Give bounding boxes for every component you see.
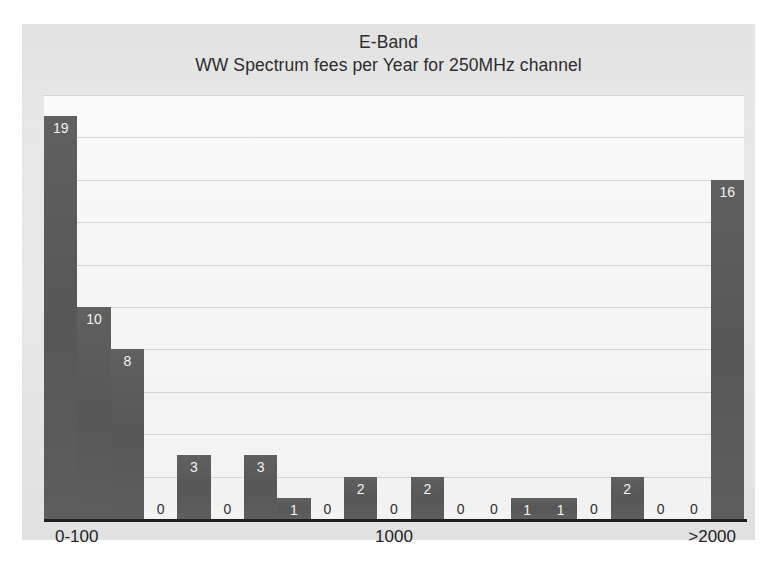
bar-slot: 2	[344, 95, 377, 519]
bar: 1	[277, 498, 310, 519]
bar-series: 191080303102020011020016	[44, 95, 744, 519]
bar-value-label: 0	[657, 502, 665, 517]
bar-value-label: 0	[590, 502, 598, 517]
bar: 1	[544, 498, 577, 519]
bar-value-label: 2	[357, 477, 365, 497]
bar-slot: 2	[411, 95, 444, 519]
bar-value-label: 16	[719, 180, 735, 200]
bar-value-label: 2	[623, 477, 631, 497]
x-tick-label-start: 0-100	[55, 526, 98, 548]
bar-value-label: 3	[190, 455, 198, 475]
bar-value-label: 1	[557, 498, 565, 518]
bar-value-label: 0	[390, 502, 398, 517]
bar-slot: 3	[177, 95, 210, 519]
bar-slot: 1	[277, 95, 310, 519]
bar-slot: 0	[211, 95, 244, 519]
bar-value-label: 3	[257, 455, 265, 475]
chart-title: E-Band	[22, 31, 755, 54]
plot-area: 191080303102020011020016	[44, 95, 744, 519]
bar-slot: 0	[377, 95, 410, 519]
bar-slot: 0	[144, 95, 177, 519]
chart-title-block: E-Band WW Spectrum fees per Year for 250…	[22, 31, 755, 77]
bar-slot: 0	[644, 95, 677, 519]
bar-slot: 0	[311, 95, 344, 519]
chart-subtitle: WW Spectrum fees per Year for 250MHz cha…	[22, 54, 755, 77]
bar-value-label: 0	[157, 502, 165, 517]
bar-value-label: 0	[490, 502, 498, 517]
bar-slot: 3	[244, 95, 277, 519]
bar: 3	[177, 455, 210, 519]
bar-value-label: 19	[53, 116, 69, 136]
bar-slot: 1	[544, 95, 577, 519]
bar: 8	[111, 349, 144, 519]
chart-card: E-Band WW Spectrum fees per Year for 250…	[22, 24, 755, 540]
bar-value-label: 1	[523, 498, 531, 518]
bar: 2	[411, 477, 444, 519]
bar: 10	[77, 307, 110, 519]
bar-value-label: 2	[423, 477, 431, 497]
bar: 2	[344, 477, 377, 519]
bar-slot: 19	[44, 95, 77, 519]
x-tick-label-mid: 1000	[375, 526, 413, 548]
screenshot-root: E-Band WW Spectrum fees per Year for 250…	[0, 0, 777, 563]
bar: 2	[611, 477, 644, 519]
bar-slot: 16	[711, 95, 744, 519]
x-tick-label-end: >2000	[688, 526, 736, 548]
bar: 1	[511, 498, 544, 519]
bar-slot: 8	[111, 95, 144, 519]
bar-slot: 0	[477, 95, 510, 519]
bar-value-label: 0	[323, 502, 331, 517]
bar-value-label: 0	[457, 502, 465, 517]
x-axis-line	[44, 519, 747, 522]
bar-value-label: 0	[690, 502, 698, 517]
bar-slot: 2	[611, 95, 644, 519]
bar-slot: 0	[444, 95, 477, 519]
bar-slot: 1	[511, 95, 544, 519]
bar-value-label: 8	[123, 349, 131, 369]
x-axis-labels: 0-100 1000 >2000	[44, 526, 744, 556]
bar-slot: 0	[577, 95, 610, 519]
bar-value-label: 1	[290, 498, 298, 518]
bar-value-label: 0	[223, 502, 231, 517]
bar: 19	[44, 116, 77, 519]
bar: 3	[244, 455, 277, 519]
bar-slot: 10	[77, 95, 110, 519]
bar-value-label: 10	[86, 307, 102, 327]
bar: 16	[711, 180, 744, 519]
bar-slot: 0	[677, 95, 710, 519]
